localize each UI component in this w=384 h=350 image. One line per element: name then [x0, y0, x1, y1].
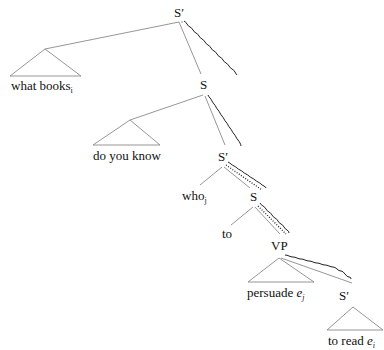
wavy-path-i-5	[285, 255, 351, 279]
triangle-persuade	[248, 258, 314, 282]
node-root-sbar: S′	[174, 5, 184, 20]
dotted-path-j-2	[258, 206, 286, 234]
triangle-what-books	[10, 49, 81, 76]
wavy-path-i-1	[184, 21, 237, 75]
leaf-to: to	[222, 226, 232, 241]
leaf-who: whoj	[182, 188, 207, 205]
node-s2: S	[250, 189, 257, 204]
edge-s1-doyouknow	[130, 95, 203, 120]
dotted-path-j-1	[226, 165, 262, 190]
triangle-do-you-know	[93, 120, 160, 145]
edge-sbar2-who	[200, 167, 222, 185]
edge-s1-sbar2	[205, 96, 225, 145]
leaf-to-read: to read ei	[328, 333, 375, 350]
syntax-tree-diagram: S′ what booksi S do you know S′ whoj S t…	[0, 0, 384, 350]
node-vp: VP	[271, 238, 288, 253]
edge-root-whatbooks	[45, 22, 179, 49]
wavy-path-i-2	[208, 95, 241, 146]
edge-root-s	[179, 22, 201, 74]
edge-sbar2-s2	[224, 167, 250, 188]
leaf-persuade: persuade ej	[247, 285, 305, 302]
node-s1: S	[200, 77, 207, 92]
triangle-to-read	[327, 307, 383, 330]
leaf-what-books: what booksi	[11, 78, 74, 95]
node-sbar3: S′	[339, 288, 349, 303]
leaf-do-you-know: do you know	[93, 148, 162, 163]
node-sbar2: S′	[218, 149, 228, 164]
edge-vp-sbar3	[281, 258, 352, 283]
edge-s2-to	[231, 207, 253, 225]
